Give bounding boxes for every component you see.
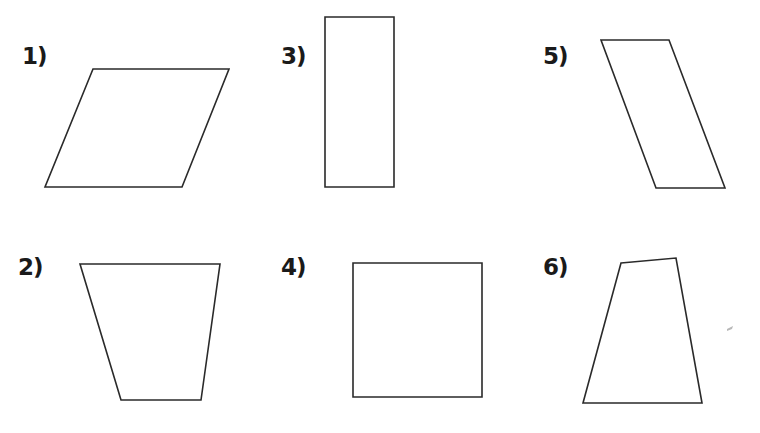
label-2: 2) [18, 256, 43, 279]
shape-3-rectangle [325, 17, 394, 187]
label-5: 5) [543, 45, 568, 68]
label-4: 4) [281, 256, 306, 279]
shape-6-quadrilateral [583, 258, 702, 403]
shape-2-trapezoid [80, 264, 220, 400]
label-1: 1) [22, 45, 47, 68]
label-3: 3) [281, 45, 306, 68]
shape-4-square [353, 263, 482, 397]
shape-5-parallelogram [601, 40, 725, 188]
smudge-mark [727, 326, 733, 331]
shape-1-parallelogram [45, 69, 229, 187]
shapes-canvas [0, 0, 760, 433]
label-6: 6) [543, 256, 568, 279]
